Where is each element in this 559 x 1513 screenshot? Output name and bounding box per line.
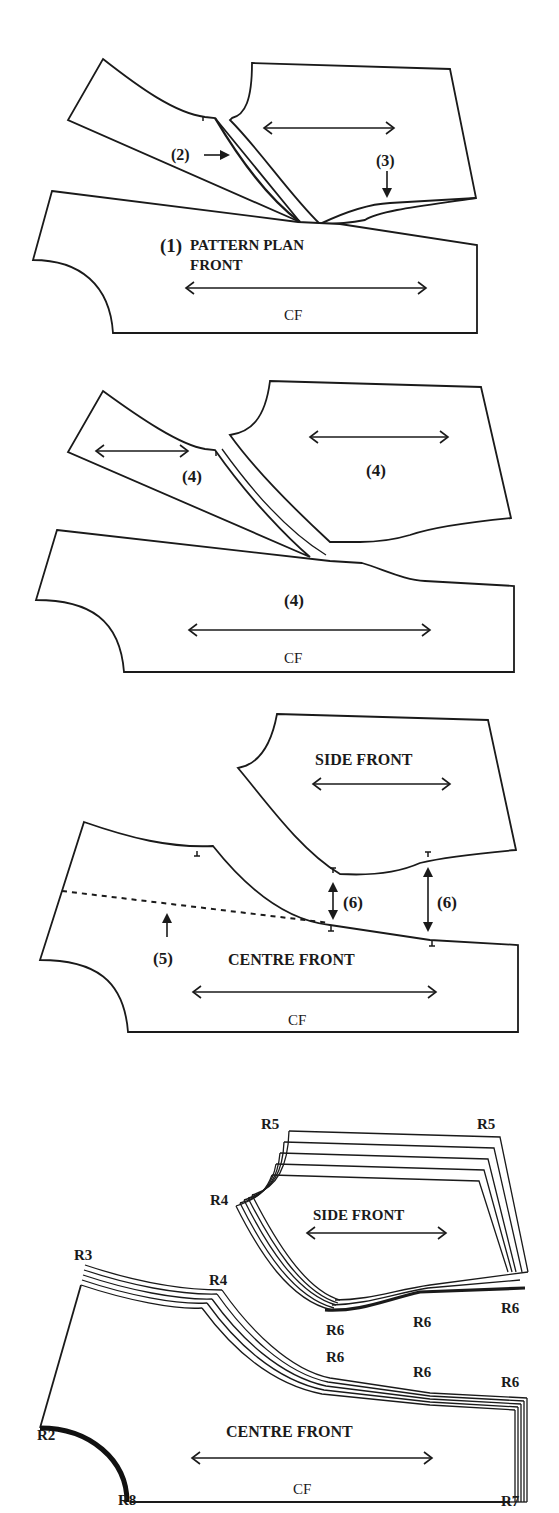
step-marker-4: (4) <box>182 467 202 486</box>
step-marker-4: (4) <box>366 461 386 480</box>
pattern-plan-title: PATTERN PLAN <box>190 237 304 253</box>
grade-point-r6: R6 <box>326 1349 345 1365</box>
side-front-label: SIDE FRONT <box>313 1207 404 1223</box>
panel-1-pattern-plan: (2) (3) (1) PATTERN PLAN FRONT CF <box>33 59 477 333</box>
double-arrow-vertical-icon <box>328 882 338 920</box>
step-marker-2: (2) <box>171 146 190 164</box>
grade-point-r4: R4 <box>210 1192 229 1208</box>
side-front-piece <box>238 714 516 875</box>
centre-front-piece <box>33 191 477 333</box>
double-arrow-vertical-icon <box>423 867 433 932</box>
grade-point-r7: R7 <box>501 1493 520 1509</box>
step-marker-3: (3) <box>376 152 395 170</box>
centre-front-graded-nest <box>40 1265 527 1502</box>
centre-front-label: CENTRE FRONT <box>226 1423 353 1440</box>
cf-label: CF <box>293 1481 311 1497</box>
step-marker-6: (6) <box>343 893 363 912</box>
panel-3-labelled-pieces: SIDE FRONT (6) (6) (5) CENTRE FRONT <box>40 714 518 1032</box>
step-marker-4: (4) <box>284 591 304 610</box>
grade-point-r5: R5 <box>261 1116 279 1132</box>
step-marker-5: (5) <box>153 949 173 968</box>
side-front-label: SIDE FRONT <box>315 751 413 768</box>
grade-point-r6: R6 <box>326 1322 345 1338</box>
grade-point-r6: R6 <box>501 1300 520 1316</box>
cf-label: CF <box>288 1012 306 1028</box>
step-marker-6: (6) <box>437 893 457 912</box>
grade-point-r3: R3 <box>74 1247 92 1263</box>
grainline-arrow-icon <box>192 1452 432 1464</box>
grade-point-r2: R2 <box>37 1427 55 1443</box>
grade-point-r5: R5 <box>477 1116 495 1132</box>
panel-2-separated-pieces: (4) (4) (4) CF <box>36 381 514 672</box>
cf-label: CF <box>284 650 302 666</box>
centre-front-piece <box>36 530 514 672</box>
grainline-arrow-icon <box>307 1227 446 1239</box>
grade-point-r6: R6 <box>413 1364 432 1380</box>
grade-point-r6: R6 <box>413 1314 432 1330</box>
pattern-grading-diagram: (2) (3) (1) PATTERN PLAN FRONT CF <box>0 0 559 1513</box>
grade-point-r6: R6 <box>501 1374 520 1390</box>
pattern-plan-subtitle: FRONT <box>190 257 243 273</box>
centre-front-label: CENTRE FRONT <box>228 951 355 968</box>
step-marker-1: (1) <box>160 235 182 257</box>
grade-point-r8: R8 <box>118 1492 136 1508</box>
cf-label: CF <box>284 307 302 323</box>
grade-point-r4: R4 <box>209 1272 228 1288</box>
panel-4-graded-nest: R5 R5 R4 R3 R4 R6 R6 R6 R6 R6 R6 R2 R8 R… <box>37 1116 528 1509</box>
